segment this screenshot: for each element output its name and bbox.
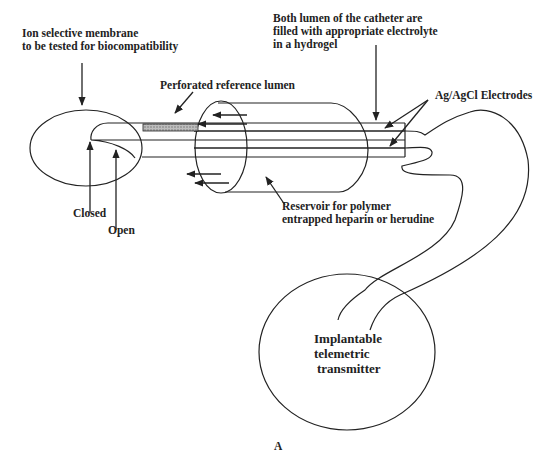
membrane-ellipse [30,110,142,186]
reference-lumen-label: Perforated reference lumen [160,79,295,92]
electrodes-label: Ag/AgCl Electrodes [435,89,532,102]
reservoir-label: Reservoir for polymer entrapped heparin … [282,200,434,226]
reservoir-label-line1: Reservoir for polymer [282,200,434,213]
lumens-label-line1: Both lumen of the catheter are [273,12,438,25]
closed-text: Closed [73,207,106,220]
closed-label: Closed [73,207,106,220]
reservoir-label-line2: entrapped heparin or herudine [282,213,434,226]
reference-lumen-text: Perforated reference lumen [160,79,295,92]
panel-label: A [274,440,282,453]
open-label: Open [108,224,135,237]
perforated-reference-segment [143,124,198,131]
panel-letter: A [274,440,282,453]
lumens-label-line2: filled with appropriate electrolyte [273,25,438,38]
open-text: Open [108,224,135,237]
lumens-label: Both lumen of the catheter are filled wi… [273,12,438,51]
membrane-label-line2: to be tested for biocompatibility [22,40,178,53]
connecting-cable-inner [338,147,463,320]
membrane-label-line1: Ion selective membrane [22,27,178,40]
lumens-label-line3: in a hydrogel [273,38,438,51]
electrodes-text: Ag/AgCl Electrodes [435,89,532,102]
transmitter-label: Implantable telemetric transmitter [314,331,382,376]
membrane-label: Ion selective membrane to be tested for … [22,27,178,53]
transmitter-label-line1: Implantable [314,331,382,346]
transmitter-label-line3: transmitter [314,361,382,376]
diagram-canvas [0,0,553,469]
transmitter-label-line2: telemetric [314,346,382,361]
